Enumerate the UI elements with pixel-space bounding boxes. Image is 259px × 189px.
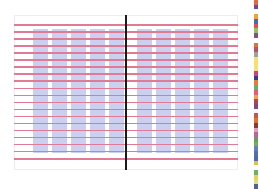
column-guide [109,29,124,153]
layout-grid-canvas [0,0,259,189]
column-guide [137,29,152,153]
column-guide [156,29,171,153]
color-strip [254,0,258,189]
spine-divider [125,15,127,170]
column-guide [175,29,190,153]
column-guide [52,29,67,153]
column-guide [33,29,48,153]
column-guide [213,29,228,153]
color-swatch [254,184,258,189]
column-guide [194,29,209,153]
column-guide [71,29,86,153]
column-guide [90,29,105,153]
